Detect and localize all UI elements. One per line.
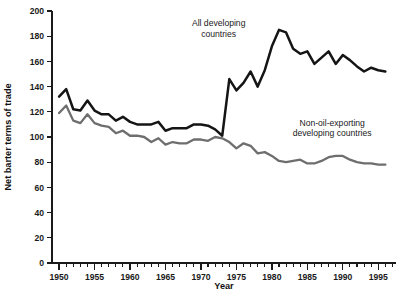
annotation-line: All developing bbox=[192, 18, 246, 28]
y-tick-label: 60 bbox=[34, 183, 44, 193]
x-tick-label: 1970 bbox=[191, 272, 210, 282]
y-tick-label: 40 bbox=[34, 208, 44, 218]
y-tick-label: 120 bbox=[30, 107, 45, 117]
x-tick-label: 1965 bbox=[156, 272, 175, 282]
y-tick-label: 160 bbox=[30, 57, 45, 67]
y-tick-label: 200 bbox=[30, 6, 45, 16]
x-axis-title: Year bbox=[214, 281, 234, 291]
x-tick-label: 1995 bbox=[369, 272, 388, 282]
all-developing-countries-label: All developingcountries bbox=[192, 18, 246, 39]
y-tick-label: 140 bbox=[30, 82, 45, 92]
x-axis-ticks: 1950195519601965197019751980198519901995 bbox=[50, 263, 393, 282]
chart-container: 020406080100120140160180200 195019551960… bbox=[0, 0, 415, 298]
y-axis-title: Net barter terms of trade bbox=[3, 83, 13, 190]
annotation-line: developing countries bbox=[293, 128, 372, 138]
annotation-line: Non-oil-exporting bbox=[299, 118, 365, 128]
chart-annotations: All developingcountriesNon-oil-exporting… bbox=[192, 18, 372, 138]
y-tick-label: 0 bbox=[39, 258, 44, 268]
x-tick-label: 1990 bbox=[333, 272, 352, 282]
terms-of-trade-line-chart: 020406080100120140160180200 195019551960… bbox=[0, 0, 415, 298]
y-tick-label: 100 bbox=[30, 132, 45, 142]
x-tick-label: 1955 bbox=[85, 272, 104, 282]
x-tick-label: 1985 bbox=[298, 272, 317, 282]
y-tick-label: 20 bbox=[34, 233, 44, 243]
annotation-line: countries bbox=[201, 29, 236, 39]
x-tick-label: 1950 bbox=[50, 272, 69, 282]
y-tick-label: 180 bbox=[30, 31, 45, 41]
non-oil-exporting-label: Non-oil-exportingdeveloping countries bbox=[293, 118, 372, 139]
y-tick-label: 80 bbox=[34, 157, 44, 167]
x-tick-label: 1980 bbox=[262, 272, 281, 282]
y-axis-ticks: 020406080100120140160180200 bbox=[30, 6, 52, 268]
x-tick-label: 1960 bbox=[120, 272, 139, 282]
